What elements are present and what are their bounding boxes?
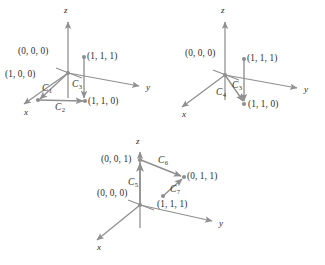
point-dot-origin-d3 (138, 203, 142, 207)
axis-label-x-d2: x (182, 110, 186, 119)
point-label-origin-d1: (0, 0, 0) (18, 47, 48, 56)
curve-label-c5-sub: 5 (135, 181, 138, 188)
curve-label-c1-sub: 1 (49, 87, 52, 94)
figure-root: z y x (0, 0, 0) (1, 0, 0) (1, 1, 1) (1, … (0, 0, 325, 265)
curve-label-c6: C6 (158, 156, 168, 166)
curve-label-c1-letter: C (42, 83, 48, 93)
point-dot-100-d1 (36, 98, 40, 102)
axis-x-line-d3 (97, 205, 140, 240)
point-dot-origin-d2 (223, 73, 227, 77)
curve-label-c6-sub: 6 (165, 159, 168, 166)
curve-label-c4-sub: 4 (223, 91, 226, 98)
point-dot-110-d2 (242, 102, 246, 106)
diagram-1-curves (36, 55, 87, 103)
point-dot-111-d1 (82, 55, 86, 59)
curve-label-c3-sub: 3 (79, 83, 82, 90)
curve-label-c7-letter: C (170, 184, 176, 194)
curve-label-c1: C1 (42, 84, 52, 94)
curve-label-c3: C3 (72, 80, 82, 90)
point-dot-111-d2 (242, 57, 246, 61)
point-label-011-d3: (0, 1, 1) (187, 172, 217, 181)
curve-label-c7: C7 (170, 185, 180, 195)
curve-label-c5-letter: C (128, 177, 134, 187)
point-label-111-d1: (1, 1, 1) (87, 52, 117, 61)
curve-label-c3-letter: C (72, 79, 78, 89)
axis-label-z-d3: z (136, 137, 140, 146)
point-label-100-d1: (1, 0, 0) (5, 70, 35, 79)
curve-label-c7-sub: 7 (177, 188, 180, 195)
point-label-origin-d3: (0, 0, 0) (97, 189, 127, 198)
axis-label-y-d1: y (146, 83, 150, 92)
axis-label-z-d2: z (221, 6, 225, 15)
curve-label-c2-sub: 2 (62, 106, 65, 113)
curve-label-c2-letter: C (55, 102, 61, 112)
point-label-110-d1: (1, 1, 0) (88, 97, 118, 106)
curve-label-c5: C5 (128, 178, 138, 188)
axis-label-x-d3: x (97, 243, 101, 252)
point-dot-origin-d1 (66, 71, 70, 75)
curve-label-c3-d2-letter: C (232, 80, 238, 90)
point-dot-110-d1 (83, 99, 87, 103)
curve-c2-segment (38, 100, 83, 101)
point-dot-011-d3 (182, 175, 186, 179)
point-label-110-d2: (1, 1, 0) (248, 100, 278, 109)
point-label-111-d3: (1, 1, 1) (157, 200, 187, 209)
curve-label-c4-letter: C (216, 87, 222, 97)
curve-label-c3-d2-sub: 3 (239, 84, 242, 91)
axis-label-y-d2: y (304, 85, 308, 94)
point-dot-001-d3 (138, 158, 142, 162)
point-label-origin-d2: (0, 0, 0) (185, 49, 215, 58)
axis-label-z-d1: z (64, 6, 68, 15)
figure-svg (0, 0, 325, 265)
curve-label-c2: C2 (55, 103, 65, 113)
point-label-111-d2: (1, 1, 1) (247, 54, 277, 63)
curve-label-c6-letter: C (158, 155, 164, 165)
curve-label-c4: C4 (216, 88, 226, 98)
point-label-001-d3: (0, 0, 1) (101, 155, 131, 164)
axis-label-y-d3: y (219, 219, 223, 228)
diagram-2-axes (182, 22, 297, 107)
point-dot-111-d3 (161, 194, 165, 198)
axis-label-x-d1: x (24, 108, 28, 117)
curve-label-c3-d2: C3 (232, 81, 242, 91)
